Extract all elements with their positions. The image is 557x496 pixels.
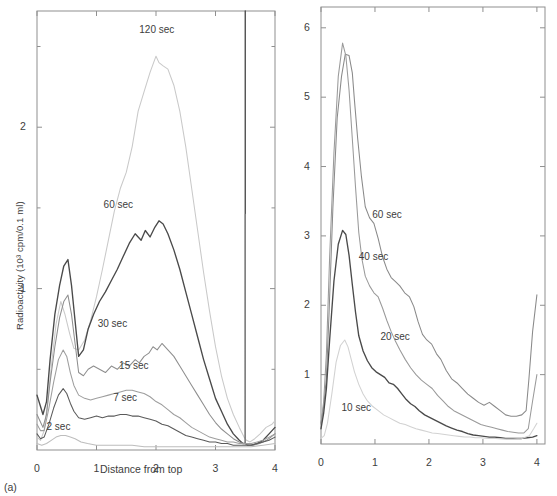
curve-label-60-sec: 60 sec [372, 209, 401, 220]
panel-a-xtick-1: 1 [87, 462, 107, 474]
curve-7-sec [37, 389, 275, 445]
panel-b-xtick-0: 0 [311, 456, 331, 468]
panel-a-xtick-3: 3 [206, 462, 226, 474]
panel-a-xtick-2: 2 [146, 462, 166, 474]
curve-label-7-sec: 7 sec [113, 392, 137, 403]
curve-label-15-sec: 15 sec [119, 360, 148, 371]
panel-b-xtick-2: 2 [419, 456, 439, 468]
panel-a-ytick-2: 2 [15, 120, 31, 132]
curve-label-20-sec: 20 sec [380, 331, 409, 342]
panel-a-y-axis-label: Radioactivity (10³ cpm/0.1 ml) [14, 201, 25, 330]
panel-b-ytick-5: 5 [299, 90, 315, 102]
panel-b-ytick-6: 6 [299, 21, 315, 33]
panel-a-plot [0, 0, 280, 496]
panel-a-ytick-1: 1 [15, 282, 31, 294]
panel-b-plot [280, 0, 557, 496]
curve-10-sec [321, 340, 537, 439]
panel-a-x-axis-label: Distance from top [100, 463, 182, 475]
panel-b-xtick-4: 4 [527, 456, 547, 468]
curve-label-2-sec: 2 sec [47, 421, 71, 432]
curve-120-sec [37, 56, 275, 442]
curve-30-sec [37, 214, 275, 445]
curve-label-40-sec: 40 sec [359, 251, 388, 262]
curve-15-sec [37, 350, 275, 444]
figure-container: Radioactivity (10³ cpm/0.1 ml) Distance … [0, 0, 557, 496]
panel-b-ytick-4: 4 [299, 160, 315, 172]
panel-a: Radioactivity (10³ cpm/0.1 ml) Distance … [0, 0, 280, 496]
panel-a-xtick-0: 0 [27, 462, 47, 474]
panel-b-ytick-1: 1 [299, 368, 315, 380]
curve-40-sec [321, 43, 537, 433]
panel-b-xtick-3: 3 [473, 456, 493, 468]
curve-label-10-sec: 10 sec [342, 402, 371, 413]
curve-label-60-sec: 60 sec [104, 199, 133, 210]
curve-label-30-sec: 30 sec [98, 318, 127, 329]
panel-a-tag: (a) [4, 481, 17, 493]
panel-b: Radioactivity (10³ cpm/0.1 ml) Distance … [280, 0, 557, 496]
panel-b-xtick-1: 1 [365, 456, 385, 468]
curve-label-120-sec: 120 sec [139, 24, 174, 35]
panel-b-ytick-2: 2 [299, 298, 315, 310]
panel-b-ytick-3: 3 [299, 229, 315, 241]
